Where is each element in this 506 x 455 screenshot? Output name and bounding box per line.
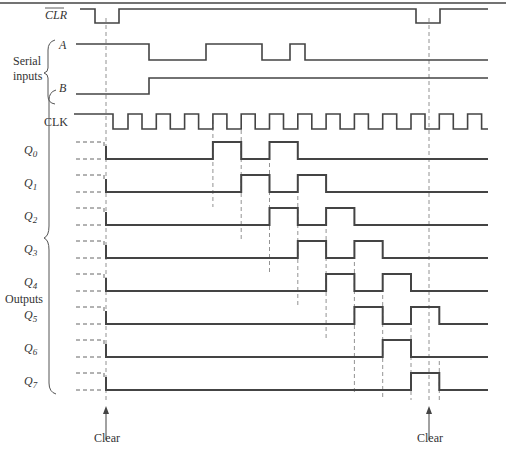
q7-label: Q7 bbox=[24, 374, 38, 390]
q3-label: Q3 bbox=[24, 242, 38, 258]
b-label: B bbox=[59, 81, 67, 95]
clk-label: CLK bbox=[44, 115, 68, 129]
q4-unknown-high bbox=[76, 274, 104, 280]
q7-unknown-high bbox=[76, 373, 104, 379]
timing-diagram: CLR A B Serial inputs CLK Outputs Q0Q1Q2… bbox=[0, 0, 506, 455]
q2-unknown-high bbox=[76, 208, 104, 214]
q5-waveform bbox=[106, 307, 488, 324]
q6-waveform bbox=[106, 340, 488, 357]
q6-label: Q6 bbox=[24, 341, 38, 357]
q2-waveform bbox=[106, 208, 488, 225]
q7-waveform bbox=[106, 373, 488, 390]
clear-arrowhead-right bbox=[426, 406, 432, 414]
serial-brace bbox=[44, 40, 55, 104]
q3-waveform bbox=[106, 241, 488, 258]
serial-label-2: inputs bbox=[13, 69, 43, 83]
q0-waveform bbox=[106, 142, 488, 159]
q1-unknown-high bbox=[76, 175, 104, 181]
clear-label-right: Clear bbox=[417, 431, 443, 445]
q5-label: Q5 bbox=[24, 308, 38, 324]
q2-label: Q2 bbox=[24, 209, 38, 225]
clr-waveform bbox=[80, 9, 488, 23]
q4-label: Q4 bbox=[24, 275, 38, 291]
q3-unknown-high bbox=[76, 241, 104, 247]
outputs-brace bbox=[44, 90, 56, 394]
q5-unknown-high bbox=[76, 307, 104, 313]
q0-unknown-high bbox=[76, 142, 104, 148]
q0-label: Q0 bbox=[24, 143, 38, 159]
b-waveform bbox=[76, 78, 488, 94]
clear-arrowhead-left bbox=[103, 406, 109, 414]
q1-waveform bbox=[106, 175, 488, 192]
clear-label-left: Clear bbox=[94, 431, 120, 445]
clr-label: CLR bbox=[45, 8, 68, 22]
q6-unknown-high bbox=[76, 340, 104, 346]
a-waveform bbox=[76, 44, 488, 60]
outputs-label: Outputs bbox=[5, 292, 43, 306]
a-label: A bbox=[58, 38, 67, 52]
clk-waveform bbox=[74, 114, 488, 129]
serial-label-1: Serial bbox=[13, 54, 42, 68]
q4-waveform bbox=[106, 274, 488, 291]
q1-label: Q1 bbox=[24, 176, 37, 192]
